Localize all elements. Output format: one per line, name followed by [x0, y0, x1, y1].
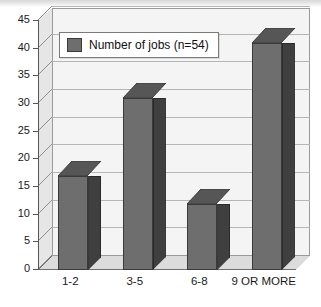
bar-top-face — [187, 189, 231, 205]
y-axis-tick-label: 45 — [2, 14, 30, 25]
bar-chart: 454035302520151050 1-23-56-89 OR MORE Nu… — [0, 0, 321, 307]
gridline — [52, 6, 310, 7]
bar — [252, 29, 282, 270]
y-axis-tick-label: 30 — [2, 97, 30, 108]
y-axis-tick-label: 10 — [2, 208, 30, 219]
bar-front-face — [58, 176, 88, 270]
y-axis-tick-label: 5 — [2, 235, 30, 246]
bar — [58, 162, 88, 270]
legend-swatch-icon — [67, 38, 82, 52]
y-axis-tick-label: 25 — [2, 125, 30, 136]
bar-front-face — [123, 98, 153, 270]
y-axis-tick-label: 20 — [2, 152, 30, 163]
bar-front-face — [252, 43, 282, 270]
bar-side-face — [217, 204, 230, 270]
legend-label: Number of jobs (n=54) — [89, 39, 209, 51]
bar-top-face — [252, 28, 296, 44]
y-axis-tick-label: 0 — [2, 263, 30, 274]
y-axis-tick-label: 35 — [2, 69, 30, 80]
bar-side-face — [282, 43, 295, 270]
bar — [123, 84, 153, 270]
y-axis-tick-label: 40 — [2, 42, 30, 53]
chart-legend: Number of jobs (n=54) — [59, 32, 219, 58]
bar-front-face — [187, 204, 217, 270]
bar-side-face — [153, 98, 166, 270]
bar-side-face — [88, 176, 101, 270]
y-axis-tick-label: 15 — [2, 180, 30, 191]
bar-top-face — [58, 161, 102, 177]
bar-top-face — [123, 83, 167, 99]
x-axis-tick-label: 9 OR MORE — [219, 276, 309, 288]
bar — [187, 190, 217, 270]
